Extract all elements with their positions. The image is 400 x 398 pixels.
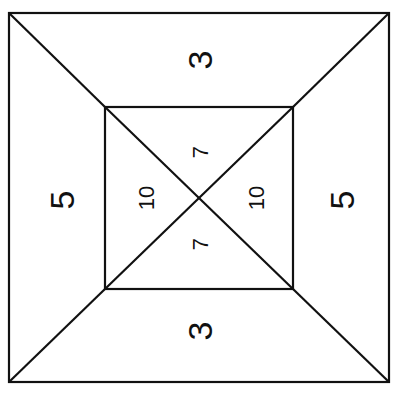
label-inner-bottom: 7: [188, 238, 213, 250]
diagonal-top-left-outer: [9, 13, 105, 107]
label-inner-right: 10: [244, 186, 269, 210]
label-left: 5: [43, 191, 81, 210]
label-top: 3: [181, 51, 219, 70]
diagonal-top-right-outer: [293, 13, 389, 107]
label-inner-top: 7: [188, 146, 213, 158]
diagonal-bottom-left-outer: [9, 289, 105, 382]
frame-diagram: 3 3 5 5 7 7 10 10: [0, 0, 400, 398]
diagonal-bottom-right-outer: [293, 289, 389, 382]
label-bottom: 3: [181, 322, 219, 341]
label-inner-left: 10: [134, 186, 159, 210]
label-right: 5: [323, 191, 361, 210]
